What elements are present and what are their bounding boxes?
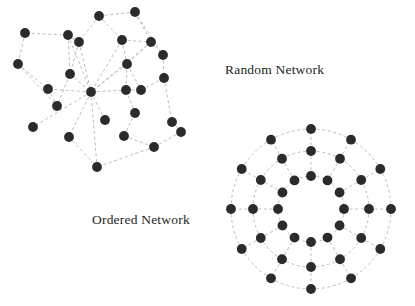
- network-edge: [242, 249, 271, 278]
- random-network-nodes: [13, 7, 186, 172]
- network-node: [375, 164, 385, 174]
- network-node: [237, 244, 247, 254]
- network-node: [266, 135, 276, 145]
- network-node: [273, 204, 283, 214]
- network-edge: [18, 64, 48, 89]
- network-edge: [271, 278, 311, 289]
- network-node: [356, 175, 366, 185]
- network-edge: [135, 12, 163, 55]
- network-node: [86, 87, 96, 97]
- network-node: [335, 254, 345, 264]
- network-edge: [91, 40, 122, 92]
- network-node: [146, 37, 156, 47]
- network-edge: [380, 169, 391, 209]
- network-node: [306, 262, 316, 272]
- network-node: [335, 188, 345, 198]
- ordered-network-label: Ordered Network: [92, 212, 190, 228]
- network-node: [149, 142, 159, 152]
- network-node: [176, 127, 186, 137]
- network-edge: [164, 78, 172, 122]
- network-node: [52, 101, 62, 111]
- network-edge: [242, 140, 271, 169]
- network-node: [290, 233, 300, 243]
- network-edge: [91, 90, 126, 92]
- network-node: [100, 115, 110, 125]
- network-node: [122, 59, 132, 69]
- network-node: [119, 131, 129, 141]
- network-node: [159, 73, 169, 83]
- network-node: [335, 154, 345, 164]
- network-edge: [68, 35, 70, 74]
- network-node: [306, 171, 316, 181]
- network-node: [256, 233, 266, 243]
- network-node: [65, 69, 75, 79]
- network-node: [117, 35, 127, 45]
- network-edge: [311, 129, 351, 140]
- network-figure: Random Network Ordered Network: [0, 0, 415, 306]
- network-edge: [99, 12, 135, 16]
- network-node: [346, 135, 356, 145]
- network-node: [92, 162, 102, 172]
- network-node: [121, 85, 131, 95]
- random-network-label: Random Network: [225, 62, 324, 78]
- network-edge: [231, 209, 242, 249]
- network-node: [339, 204, 349, 214]
- network-edge: [79, 16, 99, 42]
- network-edge: [351, 249, 380, 278]
- network-edge: [271, 129, 311, 140]
- network-node: [306, 146, 316, 156]
- network-edge: [351, 140, 380, 169]
- network-edge: [97, 147, 154, 167]
- network-node: [63, 30, 73, 40]
- network-node: [278, 221, 288, 231]
- network-edge: [311, 278, 351, 289]
- network-node: [74, 37, 84, 47]
- network-node: [256, 175, 266, 185]
- network-edge: [99, 16, 122, 40]
- network-edge: [380, 209, 391, 249]
- network-node: [364, 204, 374, 214]
- network-edge: [91, 64, 127, 92]
- network-node: [28, 122, 38, 132]
- network-node: [266, 273, 276, 283]
- network-node: [356, 233, 366, 243]
- network-node: [375, 244, 385, 254]
- network-node: [346, 273, 356, 283]
- network-edge: [48, 89, 91, 92]
- network-node: [130, 7, 140, 17]
- network-node: [237, 164, 247, 174]
- network-edge: [135, 12, 151, 42]
- network-edge: [231, 169, 242, 209]
- network-node: [277, 154, 287, 164]
- network-node: [13, 59, 23, 69]
- network-node: [386, 204, 396, 214]
- network-node: [20, 28, 30, 38]
- network-node: [167, 117, 177, 127]
- network-node: [306, 237, 316, 247]
- network-node: [306, 284, 316, 294]
- network-node: [277, 254, 287, 264]
- network-node: [335, 221, 345, 231]
- network-node: [306, 124, 316, 134]
- network-node: [94, 11, 104, 21]
- network-edge: [69, 137, 97, 167]
- network-node: [158, 50, 168, 60]
- network-node: [130, 108, 140, 118]
- network-node: [43, 84, 53, 94]
- network-edge: [18, 64, 57, 106]
- network-node: [248, 204, 258, 214]
- network-node: [278, 188, 288, 198]
- network-node: [64, 132, 74, 142]
- network-node: [323, 233, 333, 243]
- network-node: [136, 85, 146, 95]
- network-diagram-canvas: [0, 0, 415, 306]
- network-node: [323, 176, 333, 186]
- network-edge: [25, 33, 68, 35]
- ordered-network-nodes: [226, 124, 396, 294]
- network-node: [226, 204, 236, 214]
- network-node: [290, 176, 300, 186]
